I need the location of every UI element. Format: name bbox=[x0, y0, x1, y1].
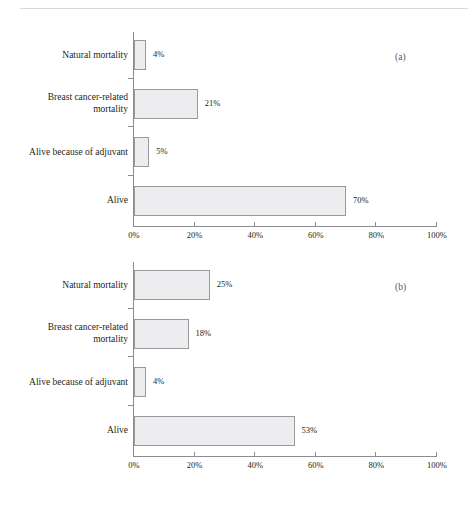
category-axis-label-line: Alive bbox=[0, 195, 128, 207]
chart-category-row: Natural mortality bbox=[0, 32, 470, 78]
bar-value-label: 70% bbox=[353, 195, 369, 205]
bar-value-label: 18% bbox=[196, 328, 212, 338]
header-divider-rule bbox=[20, 8, 468, 9]
category-axis-label-line: Alive because of adjuvant bbox=[0, 377, 128, 389]
y-axis-tick bbox=[128, 356, 134, 357]
x-axis-tick-label: 0% bbox=[128, 460, 139, 470]
chart-panel-a: (a) 0%20%40%60%80%100%Natural mortality4… bbox=[0, 24, 470, 256]
category-axis-label: Breast cancer-relatedmortality bbox=[0, 322, 128, 345]
bar-value-label: 4% bbox=[153, 376, 164, 386]
bar bbox=[134, 186, 346, 216]
category-axis-label-line: Natural mortality bbox=[0, 280, 128, 292]
y-axis-tick bbox=[128, 78, 134, 79]
x-axis-line bbox=[133, 456, 437, 457]
bar-value-label: 53% bbox=[302, 425, 318, 435]
category-axis-label: Alive bbox=[0, 425, 128, 437]
chart-category-row: Breast cancer-relatedmortality bbox=[0, 311, 470, 357]
x-axis-tick-label: 80% bbox=[369, 460, 385, 470]
bar-value-label: 5% bbox=[156, 146, 167, 156]
category-axis-label-line: Alive because of adjuvant bbox=[0, 147, 128, 159]
category-axis-label: Alive bbox=[0, 195, 128, 207]
bar-value-label: 25% bbox=[217, 279, 233, 289]
chart-category-row: Breast cancer-relatedmortality bbox=[0, 81, 470, 127]
bar-value-label: 21% bbox=[205, 98, 221, 108]
chart-panel-b: (b) 0%20%40%60%80%100%Natural mortality2… bbox=[0, 254, 470, 486]
category-axis-label: Alive because of adjuvant bbox=[0, 377, 128, 389]
chart-category-row: Alive because of adjuvant bbox=[0, 359, 470, 405]
category-axis-label-line: Alive bbox=[0, 425, 128, 437]
x-axis-tick-label: 100% bbox=[427, 230, 447, 240]
x-axis-line bbox=[133, 226, 437, 227]
page-running-head bbox=[0, 0, 470, 12]
category-axis-label: Alive because of adjuvant bbox=[0, 147, 128, 159]
category-axis-label: Natural mortality bbox=[0, 50, 128, 62]
category-axis-label-line: mortality bbox=[0, 104, 128, 116]
y-axis-tick bbox=[128, 405, 134, 406]
x-axis-tick-label: 100% bbox=[427, 460, 447, 470]
bar-value-label: 4% bbox=[153, 49, 164, 59]
category-axis-label-line: mortality bbox=[0, 334, 128, 346]
x-axis-tick-label: 80% bbox=[369, 230, 385, 240]
x-axis-tick-label: 20% bbox=[187, 230, 203, 240]
bar bbox=[134, 40, 146, 70]
x-axis-tick-label: 20% bbox=[187, 460, 203, 470]
chart-category-row: Alive because of adjuvant bbox=[0, 129, 470, 175]
x-axis-tick-label: 40% bbox=[247, 230, 263, 240]
bar bbox=[134, 367, 146, 397]
category-axis-label-line: Breast cancer-related bbox=[0, 92, 128, 104]
bar bbox=[134, 270, 210, 300]
chart-category-row: Natural mortality bbox=[0, 262, 470, 308]
category-axis-label-line: Natural mortality bbox=[0, 50, 128, 62]
category-axis-label: Natural mortality bbox=[0, 280, 128, 292]
x-axis-tick-label: 60% bbox=[308, 460, 324, 470]
y-axis-tick bbox=[128, 126, 134, 127]
plot-area-b: 0%20%40%60%80%100%Natural mortality25%Br… bbox=[0, 254, 470, 486]
bar bbox=[134, 137, 149, 167]
bar bbox=[134, 89, 198, 119]
plot-area-a: 0%20%40%60%80%100%Natural mortality4%Bre… bbox=[0, 24, 470, 256]
x-axis-tick-label: 60% bbox=[308, 230, 324, 240]
y-axis-tick bbox=[128, 175, 134, 176]
bar bbox=[134, 319, 189, 349]
category-axis-label-line: Breast cancer-related bbox=[0, 322, 128, 334]
bar bbox=[134, 416, 295, 446]
category-axis-label: Breast cancer-relatedmortality bbox=[0, 92, 128, 115]
x-axis-tick-label: 0% bbox=[128, 230, 139, 240]
y-axis-tick bbox=[128, 308, 134, 309]
x-axis-tick-label: 40% bbox=[247, 460, 263, 470]
